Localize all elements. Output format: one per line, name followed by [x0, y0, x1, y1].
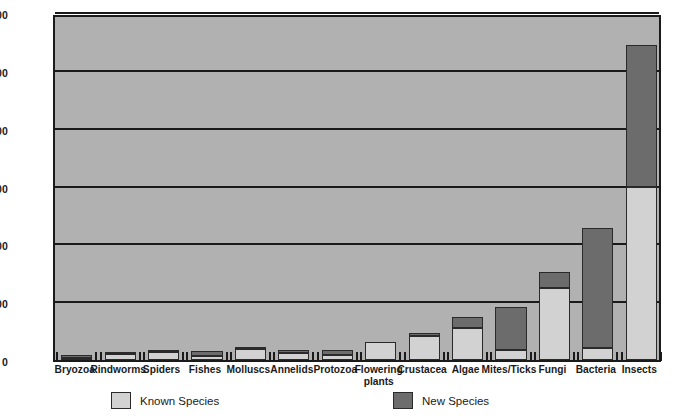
bar-segment-known-species	[191, 356, 222, 360]
bar-segment-new-species	[278, 350, 309, 353]
x-tick-mark	[269, 352, 271, 361]
bar-segment-known-species	[235, 349, 266, 360]
bar-algae	[452, 317, 483, 360]
bar-segment-new-species	[582, 228, 613, 348]
bar-segment-known-species	[495, 350, 526, 360]
y-tick-label-50000: 50,000	[0, 67, 8, 79]
bar-segment-new-species	[495, 307, 526, 350]
bar-segment-known-species	[539, 288, 570, 360]
bar-mites-ticks	[495, 307, 526, 360]
x-tick-mark	[577, 352, 579, 361]
bar-segment-new-species	[626, 45, 657, 187]
bar-segment-new-species	[409, 333, 440, 336]
x-tick-mark	[399, 352, 401, 361]
x-tick-mark	[573, 352, 575, 361]
bar-segment-new-species	[191, 351, 222, 356]
bar-fungi	[539, 272, 570, 360]
y-tick-label-0: 0	[2, 356, 8, 368]
x-tick-mark	[182, 352, 184, 361]
bar-segment-known-species	[322, 355, 353, 360]
bar-molluscs	[235, 348, 266, 360]
x-tick-mark	[447, 352, 449, 361]
bar-bacteria	[582, 228, 613, 360]
legend-item-new-species[interactable]: New Species	[393, 392, 489, 409]
legend-label: New Species	[422, 395, 489, 407]
x-tick-mark	[56, 352, 58, 361]
x-tick-mark	[486, 352, 488, 361]
bar-crustacea	[409, 333, 440, 360]
x-tick-mark	[404, 352, 406, 361]
bar-segment-new-species	[148, 350, 179, 352]
bar-flowering-plants	[365, 342, 396, 361]
bar-segment-new-species	[235, 347, 266, 349]
legend-swatch-icon	[111, 392, 131, 409]
gridline-60000	[55, 12, 659, 14]
x-tick-mark	[356, 352, 358, 361]
legend-label: Known Species	[140, 395, 219, 407]
bar-segment-new-species	[539, 272, 570, 288]
bar-annelids	[278, 350, 309, 360]
x-tick-mark	[186, 352, 188, 361]
species-stacked-bar-chart: 010,00020,00030,00040,00050,00060,000 Br…	[0, 0, 674, 418]
y-tick-label-40000: 40,000	[0, 125, 8, 137]
x-tick-mark	[143, 352, 145, 361]
bar-fishes	[191, 351, 222, 360]
bar-rindworms	[105, 354, 136, 360]
bars-layer	[55, 17, 659, 360]
x-tick-mark	[226, 352, 228, 361]
bar-segment-known-species	[61, 358, 92, 360]
x-tick-mark	[530, 352, 532, 361]
bar-segment-known-species	[148, 352, 179, 360]
x-tick-mark	[312, 352, 314, 361]
y-tick-label-20000: 20,000	[0, 240, 8, 252]
x-tick-mark	[616, 352, 618, 361]
x-tick-mark	[100, 352, 102, 361]
bar-spiders	[148, 351, 179, 360]
chart-legend: Known SpeciesNew Species	[53, 392, 661, 416]
bar-segment-known-species	[105, 354, 136, 360]
x-tick-mark	[317, 352, 319, 361]
x-tick-mark	[139, 352, 141, 361]
bar-bryozoa	[61, 355, 92, 360]
legend-swatch-icon	[393, 392, 413, 409]
bar-segment-known-species	[582, 348, 613, 360]
x-tick-mark	[490, 352, 492, 361]
bar-protozoa	[322, 350, 353, 360]
x-tick-label-insects: Insects	[605, 364, 673, 376]
bar-segment-known-species	[278, 353, 309, 360]
x-tick-mark	[95, 352, 97, 361]
x-tick-mark	[230, 352, 232, 361]
legend-item-known-species[interactable]: Known Species	[111, 392, 219, 409]
x-tick-mark	[621, 352, 623, 361]
y-tick-label-30000: 30,000	[0, 183, 8, 195]
y-tick-label-10000: 10,000	[0, 298, 8, 310]
bar-segment-new-species	[105, 352, 136, 354]
x-tick-mark	[660, 352, 662, 361]
bar-insects	[626, 45, 657, 360]
x-tick-mark	[534, 352, 536, 361]
bar-segment-new-species	[452, 317, 483, 327]
bar-segment-known-species	[452, 328, 483, 360]
bar-segment-known-species	[626, 187, 657, 361]
plot-area	[53, 15, 661, 362]
bar-segment-new-species	[61, 355, 92, 358]
x-tick-mark	[443, 352, 445, 361]
bar-segment-new-species	[322, 350, 353, 355]
x-tick-mark	[273, 352, 275, 361]
bar-segment-known-species	[365, 342, 396, 361]
y-tick-label-60000: 60,000	[0, 9, 8, 21]
x-axis-tick-labels: BryozoaRindwormsSpidersFishesMolluscsAnn…	[53, 364, 661, 394]
x-tick-mark	[360, 352, 362, 361]
bar-segment-known-species	[409, 336, 440, 360]
